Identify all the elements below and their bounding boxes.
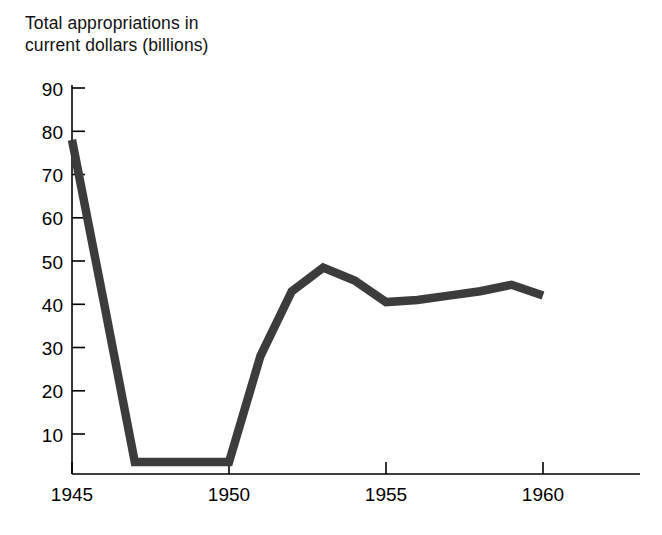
- x-tick-label-1960: 1960: [522, 484, 564, 505]
- y-tick-label-60: 60: [42, 208, 63, 229]
- y-tick-label-10: 10: [42, 425, 63, 446]
- x-tick-label-1950: 1950: [208, 484, 250, 505]
- y-tick-label-90: 90: [42, 79, 63, 100]
- line-chart-plot: 90 80 70 60 50 40 30 20 10 1945 1950: [0, 0, 662, 535]
- y-tick-label-20: 20: [42, 381, 63, 402]
- chart-figure: Total appropriations in current dollars …: [0, 0, 662, 535]
- x-tick-label-1945: 1945: [51, 484, 93, 505]
- y-tick-label-50: 50: [42, 252, 63, 273]
- y-axis: 90 80 70 60 50 40 30 20 10: [42, 79, 85, 475]
- x-tick-label-1955: 1955: [365, 484, 407, 505]
- y-tick-label-40: 40: [42, 295, 63, 316]
- data-series-line: [72, 140, 543, 462]
- y-tick-label-70: 70: [42, 165, 63, 186]
- y-tick-labels: 90 80 70 60 50 40 30 20 10: [42, 79, 63, 446]
- x-tick-labels: 1945 1950 1955 1960: [51, 484, 564, 505]
- x-axis: 1945 1950 1955 1960: [51, 462, 640, 505]
- y-tick-label-80: 80: [42, 122, 63, 143]
- y-tick-label-30: 30: [42, 338, 63, 359]
